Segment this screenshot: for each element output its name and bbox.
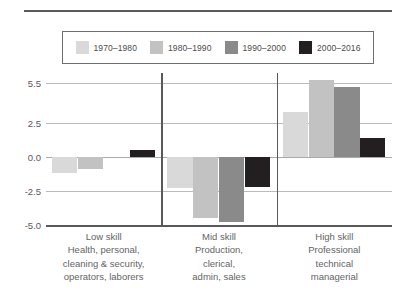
legend-item-1[interactable]: 1980–1990 (150, 41, 211, 54)
category-sublabel: Production, (161, 243, 276, 256)
category-sublabel: Professional (277, 243, 392, 256)
gridline--5.0: -5.0 (46, 225, 392, 227)
y-axis-tick-label: -5.0 (25, 220, 41, 231)
bar-mid-skill-1990–2000[interactable] (219, 157, 244, 222)
legend-item-3[interactable]: 2000–2016 (299, 41, 360, 54)
legend-item-0[interactable]: 1970–1980 (76, 41, 137, 54)
legend-item-2[interactable]: 1990–2000 (225, 41, 286, 54)
bar-mid-skill-1970–1980[interactable] (167, 157, 192, 188)
category-title: Low skill (46, 230, 161, 243)
bar-low-skill-1970–1980[interactable] (52, 157, 77, 173)
category-sublabel: managerial (277, 270, 392, 283)
legend-label-1990-2000: 1990–2000 (243, 43, 286, 53)
y-axis-tick-label: 2.5 (28, 118, 41, 129)
bar-high-skill-1970–1980[interactable] (283, 112, 308, 157)
legend-label-1970-1980: 1970–1980 (94, 43, 137, 53)
y-axis-tick-label: 0.0 (28, 152, 41, 163)
y-axis-tick-label: 5.5 (28, 77, 41, 88)
y-axis-tick-label: -2.5 (25, 186, 41, 197)
category-sublabel: clerical, (161, 257, 276, 270)
category-sublabel: operators, laborers (46, 270, 161, 283)
legend-swatch-1980-1990 (150, 41, 163, 54)
bar-high-skill-1980–1990[interactable] (309, 80, 334, 157)
top-divider-rule (24, 10, 392, 12)
legend-swatch-2000-2016 (299, 41, 312, 54)
category-sublabel: admin, sales (161, 270, 276, 283)
legend-swatch-1990-2000 (225, 41, 238, 54)
bar-series-container (46, 73, 392, 225)
category-sublabel: technical (277, 257, 392, 270)
bar-low-skill-1980–1990[interactable] (78, 157, 103, 169)
bar-low-skill-2000–2016[interactable] (130, 150, 155, 157)
chart-page: 1970–1980 1980–1990 1990–2000 2000–2016 … (0, 0, 415, 308)
category-label-mid-skill: Mid skillProduction,clerical,admin, sale… (161, 230, 276, 284)
legend-label-2000-2016: 2000–2016 (317, 43, 360, 53)
category-labels: Low skillHealth, personal,cleaning & sec… (46, 230, 392, 304)
bar-mid-skill-2000–2016[interactable] (245, 157, 270, 187)
plot-area: 5.52.50.0-2.5-5.0 (46, 73, 392, 225)
legend-swatch-1970-1980 (76, 41, 89, 54)
category-label-high-skill: High skillProfessionaltechnicalmanageria… (277, 230, 392, 284)
chart-legend: 1970–1980 1980–1990 1990–2000 2000–2016 (62, 31, 374, 64)
category-title: High skill (277, 230, 392, 243)
bar-high-skill-1990–2000[interactable] (334, 87, 359, 158)
bar-mid-skill-1980–1990[interactable] (193, 157, 218, 218)
category-label-low-skill: Low skillHealth, personal,cleaning & sec… (46, 230, 161, 284)
category-sublabel: cleaning & security, (46, 257, 161, 270)
bar-high-skill-2000–2016[interactable] (360, 138, 385, 157)
legend-label-1980-1990: 1980–1990 (168, 43, 211, 53)
category-sublabel: Health, personal, (46, 243, 161, 256)
category-title: Mid skill (161, 230, 276, 243)
